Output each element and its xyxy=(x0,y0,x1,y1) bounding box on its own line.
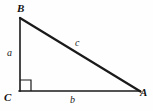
triangle-drawing xyxy=(0,0,153,111)
vertex-label-c: C xyxy=(4,92,11,103)
vertex-label-b: B xyxy=(17,3,24,14)
side-c-line xyxy=(20,18,141,92)
vertex-label-a: A xyxy=(140,87,147,98)
right-angle-marker xyxy=(20,80,31,91)
side-label-a: a xyxy=(7,48,12,58)
side-label-c: c xyxy=(75,38,79,48)
right-triangle-figure: B C A a b c xyxy=(0,0,153,111)
side-label-b: b xyxy=(70,95,75,105)
